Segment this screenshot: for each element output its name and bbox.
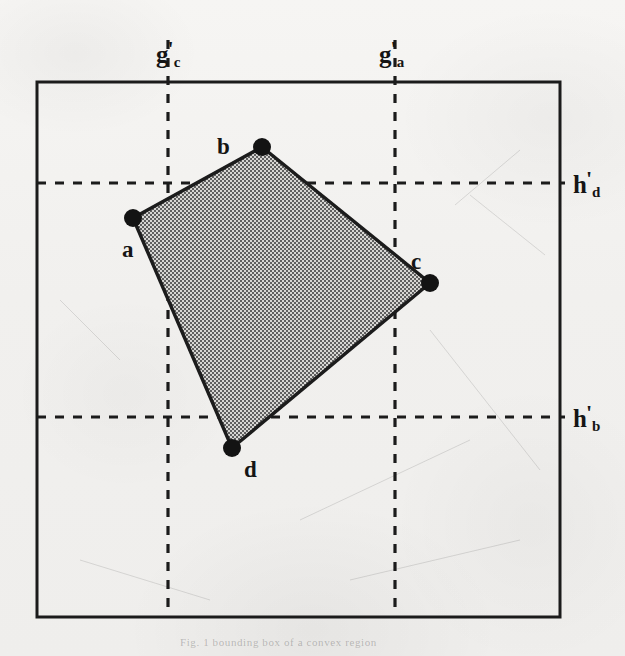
page-bleed-through-text: Fig. 1 bounding box of a convex region	[180, 636, 377, 648]
figure-canvas: g'c g'a h'd h'b a b c d Fig. 1 bounding …	[0, 0, 625, 656]
vertex-marker-a	[124, 209, 142, 227]
vertex-label-a: a	[122, 238, 134, 261]
vertex-label-c: c	[411, 250, 421, 273]
shaded-quadrilateral	[133, 147, 430, 448]
vertex-marker-d	[223, 439, 241, 457]
axis-label-g-prime-a-main: g	[379, 41, 392, 68]
vertex-marker-b	[253, 138, 271, 156]
axis-label-h-prime-d: h'd	[573, 168, 600, 200]
axis-label-h-prime-d-sub: d	[592, 184, 600, 200]
axis-label-g-prime-a-sub: a	[397, 54, 405, 70]
axis-label-g-prime-c-main: g	[156, 41, 169, 68]
figure-vector-layer	[0, 0, 625, 656]
axis-label-h-prime-b-sub: b	[592, 418, 600, 434]
vertex-label-b: b	[217, 135, 230, 158]
vertex-label-d: d	[244, 458, 257, 481]
vertex-marker-c	[421, 274, 439, 292]
axis-label-g-prime-a: g'a	[379, 38, 404, 70]
axis-label-h-prime-b-main: h	[573, 405, 587, 432]
axis-label-g-prime-c-sub: c	[174, 54, 181, 70]
axis-label-g-prime-c: g'c	[156, 38, 180, 70]
axis-label-h-prime-b: h'b	[573, 402, 600, 434]
axis-label-h-prime-d-main: h	[573, 171, 587, 198]
